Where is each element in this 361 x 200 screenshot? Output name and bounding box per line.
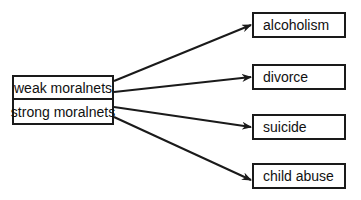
divorce-node: divorce (252, 64, 346, 90)
strong-moralnets-node: strong moralnets (14, 100, 112, 123)
alcoholism-label: alcoholism (263, 17, 329, 33)
child-abuse-label: child abuse (263, 168, 334, 184)
suicide-label: suicide (263, 119, 307, 135)
moralnets-source-box: weak moralnets strong moralnets (12, 75, 114, 125)
arrow-weak-to-divorce (114, 77, 251, 92)
weak-moralnets-node: weak moralnets (14, 77, 112, 100)
child-abuse-node: child abuse (252, 163, 346, 189)
alcoholism-node: alcoholism (252, 12, 346, 38)
divorce-label: divorce (263, 69, 308, 85)
arrow-strong-to-suicide (114, 107, 251, 127)
suicide-node: suicide (252, 114, 346, 140)
arrow-strong-to-child-abuse (114, 117, 251, 180)
arrow-weak-to-alcoholism (114, 25, 251, 81)
